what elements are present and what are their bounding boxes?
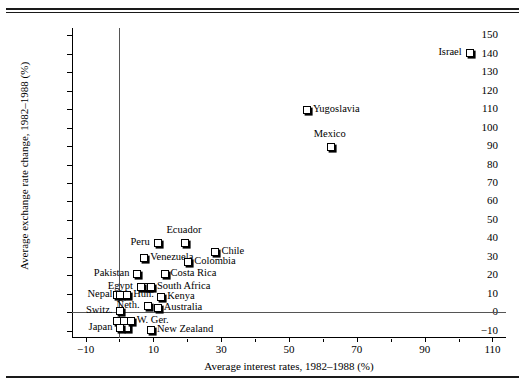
x-tick-label: 110	[484, 344, 500, 355]
y-tick-label: 140	[482, 48, 499, 59]
y-tick-label: 120	[482, 85, 499, 96]
y-tick	[67, 146, 72, 147]
square-marker-icon	[116, 307, 124, 315]
x-tick-label: 70	[351, 344, 362, 355]
x-axis-title: Average interest rates, 1982–1988 (%)	[72, 360, 506, 372]
square-marker-icon	[144, 302, 152, 310]
top-rule-thin	[6, 12, 519, 13]
x-tick-minor	[323, 339, 324, 342]
data-point-label: Ecuador	[166, 224, 201, 235]
y-tick	[67, 238, 72, 239]
square-marker-icon	[147, 326, 155, 334]
square-marker-icon	[133, 270, 141, 278]
y-tick-label: 60	[487, 195, 498, 206]
y-tick-label: 110	[482, 103, 498, 114]
x-tick	[86, 338, 87, 342]
square-marker-icon	[181, 239, 189, 247]
x-tick	[425, 338, 426, 342]
data-point-label: Colombia	[194, 255, 235, 266]
y-tick-label: 130	[482, 66, 499, 77]
figure-container: −100102030405060708090100110120130140150…	[0, 0, 525, 390]
y-tick	[67, 331, 72, 332]
x-tick	[221, 338, 222, 342]
data-point-label: Australia	[164, 301, 203, 312]
square-marker-icon	[303, 106, 311, 114]
y-tick-label: 50	[487, 214, 498, 225]
y-tick-label: 20	[487, 269, 498, 280]
data-point-label: Japan	[89, 321, 113, 332]
square-marker-icon	[140, 254, 148, 262]
x-tick-label: 90	[419, 344, 430, 355]
x-tick-minor	[459, 339, 460, 342]
y-tick-label: 90	[487, 140, 498, 151]
data-point-label: Kenya	[167, 290, 194, 301]
data-point-label: Costa Rica	[171, 267, 217, 278]
y-tick	[67, 275, 72, 276]
data-point-label: Israel	[438, 46, 461, 57]
y-tick-label: 80	[487, 159, 498, 170]
y-tick-label: 150	[482, 29, 499, 40]
y-tick-label: 40	[487, 232, 498, 243]
x-tick	[357, 338, 358, 342]
y-tick	[67, 294, 72, 295]
y-axis-line	[72, 28, 73, 338]
scatter-plot-area: −100102030405060708090100110120130140150…	[72, 28, 506, 338]
y-tick-label: 30	[487, 251, 498, 262]
square-marker-icon	[154, 304, 162, 312]
square-marker-icon	[127, 317, 135, 325]
data-point-label: Pakistan	[94, 267, 130, 278]
y-tick	[67, 54, 72, 55]
x-tick-minor	[187, 339, 188, 342]
y-tick	[67, 201, 72, 202]
square-marker-icon	[161, 270, 169, 278]
y-tick-label: 100	[482, 122, 499, 133]
data-point-label: Nepal	[87, 288, 112, 299]
y-axis-title: Average exchange rate change, 1982–1988 …	[18, 16, 30, 316]
data-point-label: Yugoslavia	[313, 103, 360, 114]
square-marker-icon	[123, 291, 131, 299]
x-tick-label: −10	[77, 344, 94, 355]
y-tick-label: −10	[481, 325, 498, 336]
y-tick	[67, 35, 72, 36]
square-marker-icon	[157, 293, 165, 301]
y-tick	[67, 220, 72, 221]
x-tick	[492, 338, 493, 342]
data-point-label: Hun.	[133, 288, 154, 299]
x-tick-label: 50	[284, 344, 295, 355]
x-tick	[153, 338, 154, 342]
x-tick-label: 10	[148, 344, 159, 355]
data-point-label: Peru	[131, 236, 150, 247]
square-marker-icon	[466, 49, 474, 57]
y-tick-label: 70	[487, 177, 498, 188]
x-tick	[289, 338, 290, 342]
y-tick	[67, 72, 72, 73]
x-tick-label: 30	[216, 344, 227, 355]
data-point-label: Mexico	[314, 128, 346, 139]
x-tick-minor	[391, 339, 392, 342]
y-tick-label: 10	[487, 288, 498, 299]
y-tick	[67, 183, 72, 184]
x-tick-minor	[255, 339, 256, 342]
y-tick	[67, 109, 72, 110]
y-tick	[67, 128, 72, 129]
data-point-label: New Zealand	[157, 323, 213, 334]
square-marker-icon	[154, 239, 162, 247]
square-marker-icon	[116, 324, 124, 332]
y-tick	[67, 91, 72, 92]
data-point-label: Switz.	[86, 304, 113, 315]
top-rule-thick	[6, 8, 519, 10]
square-marker-icon	[327, 143, 335, 151]
bottom-rule	[6, 376, 519, 378]
x-tick-minor	[119, 339, 120, 342]
y-tick	[67, 257, 72, 258]
y-tick	[67, 165, 72, 166]
square-marker-icon	[184, 258, 192, 266]
